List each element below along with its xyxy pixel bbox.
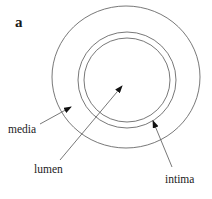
media-arrow bbox=[40, 107, 71, 124]
outer-media-boundary bbox=[52, 6, 200, 148]
panel-label: a bbox=[15, 14, 23, 30]
vessel-cross-section-diagram: a media lumen intima bbox=[0, 0, 212, 199]
intima-outer-boundary bbox=[78, 32, 176, 128]
lumen-boundary bbox=[84, 38, 170, 122]
lumen-label: lumen bbox=[34, 163, 63, 175]
intima-arrow bbox=[153, 121, 172, 167]
media-label: media bbox=[8, 123, 36, 135]
intima-label: intima bbox=[165, 173, 194, 185]
